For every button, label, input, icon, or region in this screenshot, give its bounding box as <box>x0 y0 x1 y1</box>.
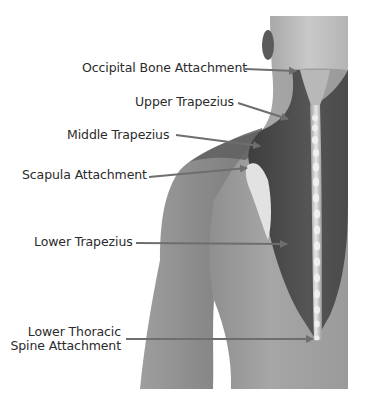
head-shape <box>270 16 348 70</box>
label-lower-thoracic-spine-attachment: Lower Thoracic Spine Attachment <box>10 325 121 353</box>
label-lower-trapezius: Lower Trapezius <box>34 235 133 249</box>
label-thoracic-line2: Spine Attachment <box>10 339 121 353</box>
label-scapula-attachment: Scapula Attachment <box>22 168 147 182</box>
ear-shape <box>262 30 274 60</box>
arrow-lower-trapezius <box>136 243 287 244</box>
label-occipital-bone-attachment: Occipital Bone Attachment <box>82 61 247 75</box>
label-upper-trapezius: Upper Trapezius <box>135 95 234 109</box>
label-thoracic-line1: Lower Thoracic <box>10 325 121 339</box>
label-middle-trapezius: Middle Trapezius <box>67 128 169 142</box>
